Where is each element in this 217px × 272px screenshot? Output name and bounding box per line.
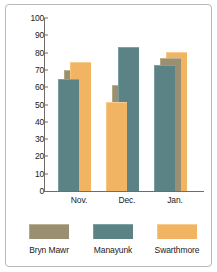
chart-card: 100 90 80 70 60 50 40 30 20 10 0 [5,4,212,267]
x-axis-label-nov: Nov. [59,195,99,205]
y-tick-label: 70 [22,66,44,75]
legend-label-swarthmore: Swarthmore [146,245,208,255]
legend-item-manayunk[interactable]: Manayunk [82,218,144,255]
x-axis-label-jan: Jan. [155,195,195,205]
bar-manayunk-nov[interactable] [58,79,79,191]
bar-group-nov [58,18,104,191]
y-tick-label: 20 [22,152,44,161]
y-tick-label: 40 [22,118,44,127]
y-tick-label: 0 [22,187,44,196]
x-axis-label-dec: Dec. [107,195,147,205]
bar-group-dec [106,18,152,191]
legend-label-bryn-mawr: Bryn Mawr [18,245,80,255]
y-tick-label: 10 [22,169,44,178]
legend-label-manayunk: Manayunk [82,245,144,255]
y-tick-label: 100 [22,14,44,23]
legend-item-swarthmore[interactable]: Swarthmore [146,218,208,255]
legend-item-bryn-mawr[interactable]: Bryn Mawr [18,218,80,255]
bar-group-jan [154,18,200,191]
x-axis-line [44,191,204,192]
y-axis-tick-labels: 100 90 80 70 60 50 40 30 20 10 0 [14,5,44,218]
legend-swatch-bryn-mawr [29,224,69,239]
y-tick-label: 80 [22,48,44,57]
y-tick-label: 60 [22,83,44,92]
plot-area: 100 90 80 70 60 50 40 30 20 10 0 [6,5,212,218]
bars-layer [44,18,204,191]
legend-swatch-swarthmore [157,224,197,239]
chart-legend: Bryn Mawr Manayunk Swarthmore [6,218,212,267]
y-tick-label: 30 [22,135,44,144]
legend-swatch-manayunk [93,224,133,239]
y-tick-label: 90 [22,31,44,40]
y-tick-label: 50 [22,100,44,109]
bar-manayunk-jan[interactable] [154,65,175,191]
bar-swarthmore-dec[interactable] [106,102,127,191]
